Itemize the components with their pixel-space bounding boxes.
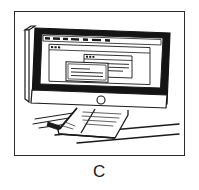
menubar-item (53, 37, 60, 40)
window-control-dot (58, 46, 60, 48)
panel-label: C (0, 161, 199, 183)
window-control-dot (86, 56, 88, 58)
illustration-frame (14, 11, 185, 156)
menubar-item (92, 39, 101, 42)
monitor-illustration (15, 12, 183, 154)
power-indicator-circle (97, 96, 105, 104)
figure-panel-c: C (0, 0, 199, 190)
menubar-item (105, 39, 110, 42)
screen-dialog-front[interactable] (66, 62, 108, 82)
window-control-dot (55, 46, 57, 48)
text-line (71, 68, 90, 69)
window-control-dot (92, 56, 94, 58)
menubar-item (63, 38, 68, 41)
menubar-item (45, 37, 50, 40)
monitor-shell-left-edge (25, 30, 29, 102)
menubar-item (71, 38, 79, 41)
window-control-dot (51, 46, 53, 48)
text-line (106, 71, 123, 72)
app-window-titlebar-dots[interactable] (51, 46, 60, 48)
menubar-item (83, 38, 88, 41)
dialog-back-titlebar-dots[interactable] (86, 56, 94, 58)
stand-foot-shadow (47, 122, 60, 130)
window-control-dot (89, 56, 91, 58)
